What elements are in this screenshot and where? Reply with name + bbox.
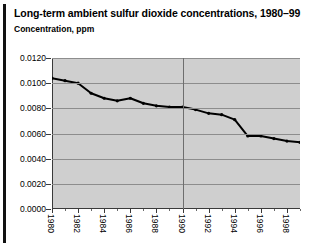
x-axis-tick-minor: [65, 209, 66, 211]
data-point-marker: [155, 104, 158, 107]
axis-subtitle: Concentration, ppm: [14, 24, 94, 34]
y-axis-tick: [46, 58, 51, 59]
data-point-marker: [129, 97, 132, 100]
x-axis-tick-minor: [196, 209, 197, 211]
y-axis-tick-label: 0.0040: [20, 154, 46, 164]
y-axis-tick: [46, 159, 51, 160]
x-axis-tick-label: 1984: [98, 214, 108, 233]
y-axis-tick: [46, 209, 51, 210]
x-axis-tick-minor: [300, 209, 301, 211]
data-point-marker: [142, 102, 145, 105]
x-axis-tick-label: 1992: [203, 214, 213, 233]
y-axis-tick-label: 0.0020: [20, 179, 46, 189]
x-axis-tick-major: [78, 209, 79, 213]
x-axis-tick-minor: [117, 209, 118, 211]
x-axis-tick-label: 1982: [72, 214, 82, 233]
y-axis-tick-label: 0.0120: [20, 53, 46, 63]
x-axis-tick-minor: [143, 209, 144, 211]
gridline-horizontal: [52, 83, 300, 84]
data-point-marker: [63, 79, 66, 82]
x-axis-tick-minor: [91, 209, 92, 211]
y-axis-labels: 0.01200.01000.00800.00600.00400.00200.00…: [0, 58, 46, 209]
data-point-marker: [103, 97, 106, 100]
data-point-marker: [220, 113, 223, 116]
data-point-marker: [259, 134, 262, 137]
x-axis-tick-minor: [222, 209, 223, 211]
gridline-horizontal: [52, 134, 300, 135]
x-axis-tick-label: 1994: [229, 214, 239, 233]
x-axis-tick-major: [261, 209, 262, 213]
gridline-horizontal: [52, 108, 300, 109]
y-axis-tick: [46, 83, 51, 84]
x-axis-tick-major: [183, 209, 184, 213]
y-axis-tick: [46, 184, 51, 185]
y-axis-tick-label: 0.0100: [20, 78, 46, 88]
x-axis-tick-label: 1986: [124, 214, 134, 233]
gridline-horizontal: [52, 58, 300, 59]
x-axis-tick-major: [130, 209, 131, 213]
x-axis-tick-major: [156, 209, 157, 213]
gridline-horizontal: [52, 184, 300, 185]
x-axis-tick-minor: [169, 209, 170, 211]
data-point-marker: [207, 112, 210, 115]
page-title: Long-term ambient sulfur dioxide concent…: [14, 7, 300, 19]
x-axis-labels: 1980198219841986198819901992199419961998: [52, 214, 300, 246]
x-axis-tick-label: 1980: [46, 214, 56, 233]
x-axis-tick-label: 1996: [255, 214, 265, 233]
data-point-marker: [90, 92, 93, 95]
x-axis-tick-label: 1990: [177, 214, 187, 233]
x-axis-tick-label: 1988: [150, 214, 160, 233]
x-axis-tick-minor: [248, 209, 249, 211]
gridline-horizontal: [52, 159, 300, 160]
plot-area: [52, 58, 300, 209]
x-axis-tick-major: [209, 209, 210, 213]
annotation-vertical-line: [183, 58, 184, 209]
data-point-marker: [285, 139, 288, 142]
y-axis-tick-label: 0.0000: [20, 204, 46, 214]
data-point-marker: [272, 137, 275, 140]
data-point-marker: [116, 99, 119, 102]
x-axis-tick-major: [52, 209, 53, 213]
y-axis-tick-label: 0.0080: [20, 103, 46, 113]
x-axis-tick-major: [235, 209, 236, 213]
chart-page: Long-term ambient sulfur dioxide concent…: [0, 0, 329, 247]
y-axis-tick-label: 0.0060: [20, 129, 46, 139]
y-axis-tick: [46, 108, 51, 109]
y-axis-tick: [46, 134, 51, 135]
data-point-marker: [246, 134, 249, 137]
x-axis-tick-major: [104, 209, 105, 213]
x-axis-tick-major: [287, 209, 288, 213]
x-axis-tick-label: 1998: [281, 214, 291, 233]
data-point-marker: [233, 118, 236, 121]
x-axis-tick-minor: [274, 209, 275, 211]
